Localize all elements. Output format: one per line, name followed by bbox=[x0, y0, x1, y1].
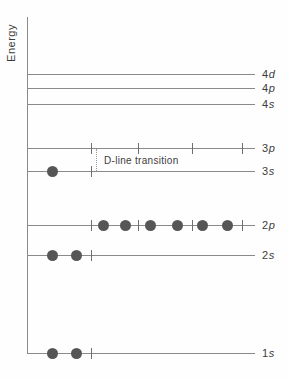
level-number: 2 bbox=[262, 249, 269, 261]
level-line-4s bbox=[27, 104, 255, 105]
electron-dot-2p bbox=[197, 220, 208, 231]
electron-dot-1s bbox=[71, 348, 82, 359]
level-letter: s bbox=[269, 98, 275, 110]
orbital-tick-2s bbox=[91, 250, 92, 261]
level-letter: s bbox=[269, 165, 275, 177]
electron-dot-2s bbox=[71, 250, 82, 261]
level-line-2s bbox=[27, 255, 255, 256]
energy-level-diagram: Energy 4d4p4s3p3s2p2s1s D-line transitio… bbox=[0, 0, 289, 378]
electron-dot-3s bbox=[47, 166, 58, 177]
orbital-tick-3s bbox=[91, 166, 92, 177]
level-letter: p bbox=[269, 142, 276, 154]
level-label-3p: 3p bbox=[262, 141, 275, 155]
level-line-4p bbox=[27, 88, 255, 89]
level-number: 3 bbox=[262, 165, 269, 177]
level-label-4p: 4p bbox=[262, 81, 275, 95]
orbital-tick-3p bbox=[138, 143, 139, 154]
orbital-tick-1s bbox=[91, 348, 92, 359]
electron-dot-2p bbox=[172, 220, 183, 231]
level-label-2s: 2s bbox=[262, 248, 275, 262]
electron-dot-2s bbox=[47, 250, 58, 261]
orbital-tick-3p bbox=[192, 143, 193, 154]
level-number: 4 bbox=[262, 82, 269, 94]
level-letter: p bbox=[269, 82, 276, 94]
orbital-tick-2p bbox=[91, 220, 92, 231]
level-line-4d bbox=[27, 74, 255, 75]
level-letter: s bbox=[269, 347, 275, 359]
energy-axis bbox=[27, 17, 28, 353]
d-line-transition-dotted-line bbox=[96, 149, 97, 171]
level-letter: s bbox=[269, 249, 275, 261]
orbital-tick-3p bbox=[242, 143, 243, 154]
electron-dot-2p bbox=[120, 220, 131, 231]
level-number: 4 bbox=[262, 98, 269, 110]
d-line-transition-label: D-line transition bbox=[104, 155, 179, 166]
level-number: 3 bbox=[262, 142, 269, 154]
level-letter: d bbox=[269, 68, 276, 80]
level-number: 2 bbox=[262, 219, 269, 231]
energy-axis-label: Energy bbox=[5, 13, 19, 73]
level-line-3s bbox=[27, 171, 255, 172]
level-label-4d: 4d bbox=[262, 67, 275, 81]
level-line-3p bbox=[27, 148, 255, 149]
level-line-1s bbox=[27, 353, 255, 354]
level-label-4s: 4s bbox=[262, 97, 275, 111]
orbital-tick-3p bbox=[91, 143, 92, 154]
level-label-2p: 2p bbox=[262, 218, 275, 232]
orbital-tick-2p bbox=[138, 220, 139, 231]
level-letter: p bbox=[269, 219, 276, 231]
electron-dot-2p bbox=[145, 220, 156, 231]
electron-dot-1s bbox=[47, 348, 58, 359]
level-line-2p bbox=[27, 225, 255, 226]
electron-dot-2p bbox=[98, 220, 109, 231]
level-label-1s: 1s bbox=[262, 346, 275, 360]
electron-dot-2p bbox=[222, 220, 233, 231]
level-label-3s: 3s bbox=[262, 164, 275, 178]
orbital-tick-2p bbox=[192, 220, 193, 231]
level-number: 4 bbox=[262, 68, 269, 80]
orbital-tick-2p bbox=[242, 220, 243, 231]
level-number: 1 bbox=[262, 347, 269, 359]
